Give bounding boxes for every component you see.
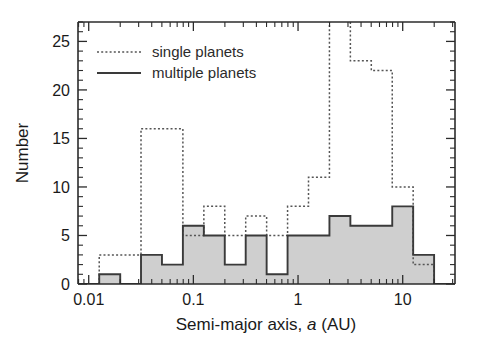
y-tick-label: 20 [52, 82, 70, 99]
legend-label-multiple-planets: multiple planets [152, 64, 256, 81]
y-axis-tick-labels: 0510152025 [52, 33, 70, 293]
x-tick-label: 10 [394, 291, 412, 308]
x-axis-title: Semi-major axis, a (AU) [176, 315, 356, 334]
x-tick-label: 1 [294, 291, 303, 308]
y-tick-label: 10 [52, 179, 70, 196]
y-tick-label: 15 [52, 130, 70, 147]
x-tick-label: 0.01 [73, 291, 104, 308]
y-tick-label: 5 [61, 227, 70, 244]
figure-container: 0.010.1110 0510152025 Semi-major axis, a… [0, 0, 482, 356]
y-axis-title: Number [13, 122, 32, 183]
legend-label-single-planets: single planets [152, 43, 244, 60]
x-axis-tick-labels: 0.010.1110 [73, 291, 412, 308]
x-tick-label: 0.1 [182, 291, 204, 308]
histogram-chart: 0.010.1110 0510152025 Semi-major axis, a… [0, 0, 482, 356]
y-tick-label: 25 [52, 33, 70, 50]
y-tick-label: 0 [61, 276, 70, 293]
